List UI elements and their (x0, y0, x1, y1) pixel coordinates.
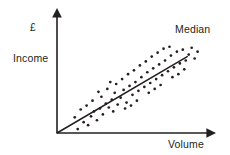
median-annotation-label: Median (175, 23, 210, 35)
scatter-point (124, 107, 127, 110)
scatter-point (164, 59, 167, 62)
scatter-point (106, 88, 109, 91)
scatter-point (137, 90, 140, 93)
scatter-point (144, 60, 147, 63)
scatter-point (90, 115, 93, 118)
scatter-point (100, 95, 103, 98)
scatter-point (102, 113, 105, 116)
scatter-point (161, 74, 164, 77)
scatter-point (153, 88, 156, 91)
scatter-point (79, 108, 82, 111)
scatter-point (82, 121, 85, 124)
scatter-point (85, 104, 88, 107)
scatter-point (109, 81, 112, 84)
scatter-point (143, 86, 146, 89)
scatter-point (155, 78, 158, 81)
scatter-point (181, 48, 184, 51)
scatter-point (177, 73, 180, 76)
scatter-point (158, 63, 161, 66)
scatter-point (116, 103, 119, 106)
scatter-point (196, 50, 199, 53)
scatter-chart: £ Income Volume Median (0, 0, 230, 155)
scatter-point (133, 69, 136, 72)
scatter-point (193, 57, 196, 60)
scatter-point (149, 82, 152, 85)
scatter-point (115, 83, 118, 86)
scatter-point (167, 70, 170, 73)
scatter-point (184, 59, 187, 62)
scatter-point (128, 85, 131, 88)
scatter-point (87, 124, 90, 127)
scatter-point (76, 128, 79, 131)
scatter-point (150, 55, 153, 58)
scatter-point (168, 45, 171, 48)
scatter-point (134, 81, 137, 84)
scatter-point (127, 73, 130, 76)
scatter-point (171, 76, 174, 79)
scatter-point (147, 91, 150, 94)
median-line (57, 57, 187, 133)
scatter-point (112, 110, 115, 113)
scatter-point (91, 99, 94, 102)
scatter-point (113, 91, 116, 94)
scatter-point (159, 84, 162, 87)
scatter-point (178, 62, 181, 65)
scatter-point (183, 68, 186, 71)
scatter-point (136, 99, 139, 102)
scatter-point (139, 64, 142, 67)
median-trendline (57, 57, 187, 133)
scatter-point (170, 54, 173, 57)
scatter-point (130, 104, 133, 107)
y-axis-unit-label: £ (30, 22, 36, 33)
scatter-point (146, 71, 149, 74)
scatter-point (131, 93, 134, 96)
scatter-point (190, 46, 193, 49)
x-axis-label: Volume (168, 138, 204, 150)
scatter-point (121, 78, 124, 81)
scatter-point (173, 66, 176, 69)
data-points (73, 45, 199, 130)
scatter-point (122, 89, 125, 92)
scatter-point (187, 53, 190, 56)
scatter-point (140, 76, 143, 79)
scatter-point (125, 101, 128, 104)
y-axis-label: Income (13, 52, 48, 64)
scatter-point (73, 116, 76, 119)
scatter-point (162, 47, 165, 50)
scatter-point (176, 50, 179, 53)
scatter-point (97, 90, 100, 93)
scatter-point (107, 106, 110, 109)
scatter-point (156, 51, 159, 54)
scatter-point (96, 119, 99, 122)
scatter-point (152, 67, 155, 70)
